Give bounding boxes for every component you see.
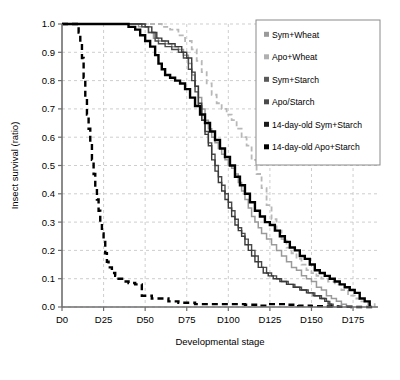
y-tick-label: 0.1	[42, 273, 55, 284]
legend-item-14-day-old-sym-starch[interactable]: 14-day-old Sym+Starch	[264, 120, 362, 130]
y-tick-label: 0.7	[42, 103, 55, 114]
x-tick-label: D175	[342, 314, 365, 325]
x-tick-label: D100	[217, 314, 240, 325]
survival-chart: 0.00.10.20.30.40.50.60.70.80.91.0D0D25D5…	[0, 0, 400, 380]
legend-label: Apo+Wheat	[272, 52, 318, 62]
y-tick-label: 1.0	[42, 18, 55, 29]
legend-item-apo-wheat[interactable]: Apo+Wheat	[264, 52, 318, 62]
y-tick-label: 0.8	[42, 75, 55, 86]
x-tick-label: D75	[178, 314, 195, 325]
x-tick-label: D25	[95, 314, 112, 325]
legend-item-14-day-old-apo-starch[interactable]: 14-day-old Apo+Starch	[264, 142, 360, 152]
y-tick-label: 0.2	[42, 245, 55, 256]
legend-swatch	[264, 77, 269, 82]
legend-swatch	[264, 144, 269, 149]
legend-label: 14-day-old Sym+Starch	[272, 120, 362, 130]
legend-swatch	[264, 32, 269, 37]
legend-label: Apo/Starch	[272, 97, 315, 107]
y-tick-label: 0.4	[42, 188, 55, 199]
legend-label: Sym+Wheat	[272, 30, 320, 40]
legend-item-sym-starch[interactable]: Sym+Starch	[264, 75, 319, 85]
x-tick-label: D50	[136, 314, 153, 325]
y-tick-label: 0.5	[42, 160, 55, 171]
legend: Sym+WheatApo+WheatSym+StarchApo/Starch14…	[256, 20, 380, 165]
legend-swatch	[264, 54, 269, 59]
x-tick-label: D150	[300, 314, 323, 325]
y-tick-label: 0.9	[42, 47, 55, 58]
x-axis-title: Developmental stage	[175, 336, 264, 347]
x-tick-label: D0	[56, 314, 68, 325]
figure-container: 0.00.10.20.30.40.50.60.70.80.91.0D0D25D5…	[0, 0, 400, 380]
legend-label: 14-day-old Apo+Starch	[272, 142, 360, 152]
x-tick-label: D125	[259, 314, 282, 325]
y-tick-label: 0.3	[42, 217, 55, 228]
legend-label: Sym+Starch	[272, 75, 319, 85]
y-tick-label: 0.0	[42, 301, 55, 312]
legend-swatch	[264, 122, 269, 127]
y-axis-title: Insect survival (ratio)	[9, 122, 20, 210]
legend-item-apo-starch[interactable]: Apo/Starch	[264, 97, 315, 107]
y-tick-label: 0.6	[42, 132, 55, 143]
legend-item-sym-wheat[interactable]: Sym+Wheat	[264, 30, 320, 40]
legend-swatch	[264, 99, 269, 104]
